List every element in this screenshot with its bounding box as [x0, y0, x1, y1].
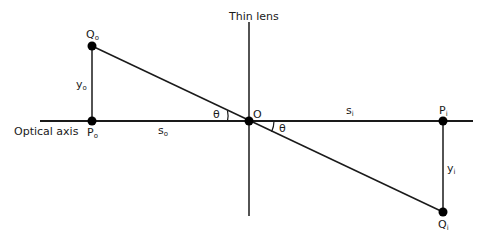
- label-po: Po: [87, 126, 98, 140]
- point-qo: [88, 42, 97, 51]
- label-so: so: [158, 124, 168, 138]
- label-qo: Qo: [86, 28, 99, 42]
- angle-arc-object: [228, 111, 229, 121]
- label-pi: Pi: [439, 104, 448, 118]
- label-qi: Qi: [438, 218, 449, 232]
- label-yi: yi: [447, 162, 456, 176]
- angle-arc-image: [272, 121, 274, 132]
- angle-label-image: θ: [279, 122, 286, 135]
- thin-lens-diagram: Thin lens Optical axis Qo Po O Pi Qi so …: [0, 0, 484, 241]
- point-po: [88, 117, 97, 126]
- label-o: O: [253, 108, 262, 121]
- angle-label-object: θ: [213, 108, 220, 121]
- optical-axis-label: Optical axis: [14, 125, 79, 138]
- thin-lens-label: Thin lens: [228, 10, 279, 23]
- point-qi: [439, 208, 448, 217]
- chief-ray-line: [92, 46, 443, 212]
- label-yo: yo: [76, 78, 87, 92]
- label-si: si: [346, 104, 354, 118]
